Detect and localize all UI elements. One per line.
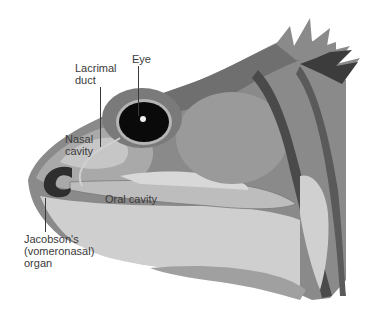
eye-highlight	[140, 116, 146, 122]
eye-ball	[119, 102, 169, 142]
label-oral-cavity: Oral cavity	[105, 193, 157, 205]
leader-lacrimal-duct	[100, 87, 101, 147]
leader-eye	[138, 66, 139, 116]
label-nasal-cavity: Nasal cavity	[65, 133, 93, 157]
leader-jacobsons-organ	[45, 198, 46, 232]
label-lacrimal-duct: Lacrimal duct	[75, 62, 117, 86]
lizard-head-diagram	[0, 0, 386, 319]
label-jacobsons-organ: Jacobson's (vomeronasal) organ	[24, 233, 94, 269]
label-eye: Eye	[132, 53, 151, 65]
